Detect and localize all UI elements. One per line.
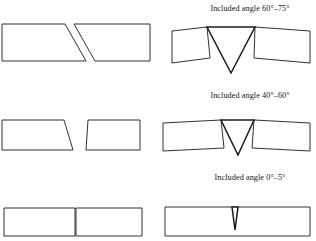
row-1-right-figure xyxy=(172,27,310,73)
row-3-left-figure xyxy=(4,208,142,236)
row-2-left-plate-left xyxy=(2,120,73,150)
row-2-right-figure xyxy=(163,120,310,155)
row-3-right-figure xyxy=(165,207,310,236)
row-1-left-plate-right xyxy=(74,24,150,61)
row-2-included-angle-label: Included angle 40°–60° xyxy=(186,92,314,100)
row-1-left-figure xyxy=(2,24,150,61)
row-2-v-groove xyxy=(221,120,254,155)
row-1-joint-plate-right xyxy=(254,27,310,63)
row-2-left-plate-right xyxy=(86,120,140,150)
row-1-joint-plate-left xyxy=(172,27,210,63)
row-3-left-plate-right xyxy=(76,208,142,236)
row-1-included-angle-label: Included angle 60°–75° xyxy=(186,5,314,13)
row-2-joint-plate-left xyxy=(163,120,224,151)
row-2-left-figure xyxy=(2,120,140,150)
diagram-canvas xyxy=(0,0,316,241)
row-1-v-groove xyxy=(207,27,255,73)
weld-joint-diagram: Included angle 60°–75° Included angle 40… xyxy=(0,0,316,241)
row-1-left-plate-left xyxy=(2,24,86,61)
row-2-joint-plate-right xyxy=(252,120,310,151)
row-3-included-angle-label: Included angle 0°–5° xyxy=(186,174,314,182)
row-3-left-plate-left xyxy=(4,208,75,236)
